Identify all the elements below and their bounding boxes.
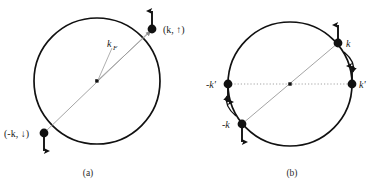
fermi-pairing-figure: k F (k, ↑) (-k, ↓) (a) <box>0 0 384 189</box>
electron-dot-kprime-b <box>348 80 357 89</box>
state-label-kprime-b: k' <box>359 79 366 90</box>
electron-dot-k-b <box>334 39 343 48</box>
figure-root: k F (k, ↑) (-k, ↓) (a) <box>0 0 384 189</box>
electron-dot-minuskprime-b <box>224 80 233 89</box>
panel-caption-b: (b) <box>286 168 297 179</box>
kf-radius-arrow-a <box>98 31 151 80</box>
panel-caption-a: (a) <box>83 168 94 179</box>
kf-label-subscript-a: F <box>112 44 118 52</box>
kf-leader-line-a <box>98 48 112 80</box>
electron-dot-minus-k-down-a <box>40 129 49 138</box>
electron-dot-k-up-a <box>148 25 157 34</box>
state-label-minus-k-down-a: (-k, ↓) <box>4 128 29 140</box>
state-label-minusk-b: -k <box>222 119 230 130</box>
kf-label-a: k <box>107 38 112 49</box>
state-label-minuskprime-b: -k' <box>206 79 217 90</box>
state-point-k-up-a <box>148 11 157 33</box>
state-point-minus-k-prime-down-b <box>224 80 233 102</box>
state-point-minus-k-down-b <box>238 120 247 142</box>
state-label-k-b: k <box>346 38 351 49</box>
panel-b: k k' -k' -k (b) <box>206 22 366 179</box>
state-point-k-up-b <box>334 25 343 47</box>
state-point-k-prime-up-b <box>348 66 357 88</box>
panel-a: k F (k, ↑) (-k, ↓) (a) <box>4 11 185 179</box>
state-label-k-up-a: (k, ↑) <box>163 24 185 36</box>
state-point-minus-k-down-a <box>40 129 49 151</box>
origin-marker-b <box>288 82 291 85</box>
electron-dot-minusk-b <box>238 120 247 129</box>
